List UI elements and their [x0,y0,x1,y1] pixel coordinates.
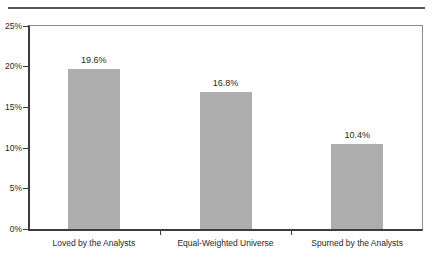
y-tick-label: 0% [0,224,22,234]
bar-value-label: 10.4% [322,130,392,141]
x-tick-mark [291,231,292,235]
category-label: Spurned by the Analysts [287,238,427,248]
top-rule [8,7,425,9]
bar [200,92,252,229]
y-tick-mark [23,148,28,149]
x-tick-mark [160,231,161,235]
y-tick-label: 5% [0,183,22,193]
y-tick-mark [23,66,28,67]
bar-value-label: 19.6% [59,55,129,66]
y-tick-mark [23,107,28,108]
y-tick-mark [23,229,28,230]
y-tick-mark [23,26,28,27]
bar-chart-figure: 0%5%10%15%20%25%19.6%Loved by the Analys… [0,0,432,254]
y-tick-label: 25% [0,21,22,31]
category-label: Loved by the Analysts [24,238,164,248]
bar-value-label: 16.8% [191,78,261,89]
y-tick-mark [23,188,28,189]
y-tick-label: 15% [0,102,22,112]
y-tick-label: 10% [0,143,22,153]
y-tick-label: 20% [0,61,22,71]
category-label: Equal-Weighted Universe [156,238,296,248]
bar [331,144,383,229]
bar [68,69,120,229]
